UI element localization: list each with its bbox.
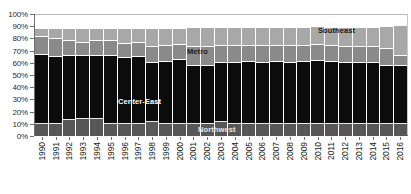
bar-segment-northwest[interactable] bbox=[146, 121, 159, 136]
bar-segment-northwest[interactable] bbox=[380, 123, 393, 136]
bar-segment-metro[interactable] bbox=[215, 45, 228, 62]
bar-column[interactable] bbox=[242, 15, 256, 136]
bar-segment-center-east[interactable] bbox=[49, 56, 62, 123]
bar-segment-center-east[interactable] bbox=[63, 55, 76, 119]
bar-column[interactable] bbox=[132, 15, 146, 136]
bar-column[interactable] bbox=[49, 15, 63, 136]
bar-segment-center-east[interactable] bbox=[201, 65, 214, 123]
bar-column[interactable] bbox=[118, 15, 132, 136]
bar-segment-metro[interactable] bbox=[90, 40, 103, 55]
bar-segment-northwest[interactable] bbox=[63, 119, 76, 136]
bar-segment-southeast[interactable] bbox=[284, 27, 297, 45]
bar-segment-center-east[interactable] bbox=[187, 65, 200, 123]
bar-segment-metro[interactable] bbox=[367, 46, 380, 62]
bar-column[interactable] bbox=[104, 15, 118, 136]
bar-segment-center-east[interactable] bbox=[256, 62, 269, 123]
bar-segment-center-east[interactable] bbox=[159, 61, 172, 123]
bar-segment-southeast[interactable] bbox=[242, 27, 255, 45]
bar-column[interactable] bbox=[256, 15, 270, 136]
bar-segment-southeast[interactable] bbox=[256, 27, 269, 45]
bar-segment-metro[interactable] bbox=[76, 42, 89, 55]
bar-segment-northwest[interactable] bbox=[118, 123, 131, 136]
bar-segment-northwest[interactable] bbox=[49, 123, 62, 136]
bar-column[interactable] bbox=[35, 15, 49, 136]
bar-segment-northwest[interactable] bbox=[353, 123, 366, 136]
bar-segment-center-east[interactable] bbox=[242, 61, 255, 123]
bar-segment-northwest[interactable] bbox=[367, 123, 380, 136]
bar-segment-metro[interactable] bbox=[270, 45, 283, 61]
bar-segment-metro[interactable] bbox=[311, 44, 324, 60]
bar-segment-center-east[interactable] bbox=[35, 54, 48, 123]
bar-column[interactable] bbox=[380, 15, 394, 136]
bar-segment-northwest[interactable] bbox=[242, 123, 255, 136]
bar-segment-northwest[interactable] bbox=[76, 118, 89, 136]
bar-segment-center-east[interactable] bbox=[367, 62, 380, 123]
bar-segment-southeast[interactable] bbox=[215, 27, 228, 45]
bar-segment-metro[interactable] bbox=[325, 45, 338, 61]
bar-segment-center-east[interactable] bbox=[76, 55, 89, 118]
bar-segment-southeast[interactable] bbox=[380, 26, 393, 48]
bar-segment-southeast[interactable] bbox=[270, 27, 283, 45]
bar-column[interactable] bbox=[228, 15, 242, 136]
bar-segment-northwest[interactable] bbox=[297, 123, 310, 136]
bar-segment-center-east[interactable] bbox=[311, 60, 324, 123]
bar-segment-metro[interactable] bbox=[284, 45, 297, 62]
bar-segment-metro[interactable] bbox=[63, 40, 76, 55]
bar-segment-metro[interactable] bbox=[35, 36, 48, 54]
bar-segment-metro[interactable] bbox=[380, 48, 393, 65]
bar-segment-center-east[interactable] bbox=[173, 59, 186, 123]
bar-segment-metro[interactable] bbox=[242, 45, 255, 61]
bar-segment-metro[interactable] bbox=[118, 43, 131, 58]
bar-segment-southeast[interactable] bbox=[394, 25, 407, 55]
bar-column[interactable] bbox=[173, 15, 187, 136]
bar-segment-metro[interactable] bbox=[104, 40, 117, 55]
bar-segment-southeast[interactable] bbox=[35, 28, 48, 35]
bar-segment-southeast[interactable] bbox=[159, 28, 172, 45]
bar-column[interactable] bbox=[201, 15, 215, 136]
bar-segment-northwest[interactable] bbox=[90, 118, 103, 136]
bar-segment-center-east[interactable] bbox=[132, 56, 145, 123]
bar-segment-southeast[interactable] bbox=[118, 28, 131, 43]
bar-column[interactable] bbox=[297, 15, 311, 136]
bar-segment-metro[interactable] bbox=[394, 55, 407, 65]
bar-segment-southeast[interactable] bbox=[63, 28, 76, 40]
bar-segment-southeast[interactable] bbox=[297, 27, 310, 45]
bar-segment-metro[interactable] bbox=[159, 45, 172, 61]
bar-segment-northwest[interactable] bbox=[173, 123, 186, 136]
bar-segment-southeast[interactable] bbox=[187, 27, 200, 46]
bar-segment-metro[interactable] bbox=[353, 46, 366, 62]
bar-segment-center-east[interactable] bbox=[90, 55, 103, 118]
bar-segment-northwest[interactable] bbox=[325, 123, 338, 136]
bar-segment-center-east[interactable] bbox=[297, 61, 310, 123]
bar-segment-metro[interactable] bbox=[49, 38, 62, 56]
bar-segment-center-east[interactable] bbox=[215, 62, 228, 121]
bar-column[interactable] bbox=[284, 15, 298, 136]
bar-segment-northwest[interactable] bbox=[284, 123, 297, 136]
bar-segment-southeast[interactable] bbox=[173, 28, 186, 44]
bar-segment-metro[interactable] bbox=[339, 46, 352, 62]
bar-segment-southeast[interactable] bbox=[228, 27, 241, 45]
bar-segment-center-east[interactable] bbox=[325, 61, 338, 123]
bar-segment-metro[interactable] bbox=[132, 42, 145, 57]
bar-column[interactable] bbox=[367, 15, 381, 136]
bar-column[interactable] bbox=[187, 15, 201, 136]
bar-segment-southeast[interactable] bbox=[76, 28, 89, 41]
bar-segment-northwest[interactable] bbox=[35, 123, 48, 136]
bar-segment-southeast[interactable] bbox=[90, 28, 103, 40]
bar-segment-metro[interactable] bbox=[228, 45, 241, 62]
bar-segment-northwest[interactable] bbox=[394, 123, 407, 136]
bar-segment-southeast[interactable] bbox=[367, 27, 380, 46]
bar-segment-northwest[interactable] bbox=[104, 123, 117, 136]
bar-segment-northwest[interactable] bbox=[132, 123, 145, 136]
bar-segment-center-east[interactable] bbox=[146, 62, 159, 121]
bar-segment-center-east[interactable] bbox=[118, 57, 131, 122]
bar-segment-center-east[interactable] bbox=[104, 55, 117, 123]
bar-segment-center-east[interactable] bbox=[270, 61, 283, 123]
bar-segment-southeast[interactable] bbox=[146, 28, 159, 46]
bar-segment-southeast[interactable] bbox=[49, 28, 62, 38]
bar-segment-center-east[interactable] bbox=[284, 62, 297, 123]
bar-segment-southeast[interactable] bbox=[132, 28, 145, 41]
bar-segment-center-east[interactable] bbox=[394, 65, 407, 123]
bar-segment-northwest[interactable] bbox=[256, 123, 269, 136]
bar-segment-northwest[interactable] bbox=[270, 123, 283, 136]
